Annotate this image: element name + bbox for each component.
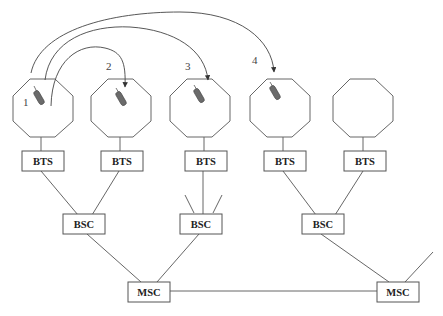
msc-box-2: MSC bbox=[377, 282, 419, 302]
bts-box-3: BTS bbox=[185, 151, 227, 171]
bts-bsc-links bbox=[41, 171, 363, 215]
cell-number-3: 3 bbox=[185, 60, 191, 72]
cell-5 bbox=[333, 79, 393, 137]
bsc-label: BSC bbox=[74, 219, 94, 230]
bts-label: BTS bbox=[33, 156, 53, 167]
bts-box-5: BTS bbox=[344, 151, 386, 171]
bsc-box-1: BSC bbox=[63, 214, 105, 234]
msc-box-1: MSC bbox=[128, 282, 170, 302]
bts-label: BTS bbox=[196, 156, 216, 167]
bts-label: BTS bbox=[112, 156, 132, 167]
bts-box-4: BTS bbox=[264, 151, 306, 171]
bsc-label: BSC bbox=[313, 219, 333, 230]
bsc-box-2: BSC bbox=[180, 214, 222, 234]
cell-number-1: 1 bbox=[23, 96, 29, 108]
msc-label: MSC bbox=[137, 287, 160, 298]
msc-label: MSC bbox=[386, 287, 409, 298]
cell-number-2: 2 bbox=[106, 60, 112, 72]
cell-1 bbox=[13, 79, 73, 137]
cell-3 bbox=[170, 79, 230, 137]
bts-box-2: BTS bbox=[101, 151, 143, 171]
network-diagram: 1 2 3 4 BTS BTS BTS BTS BTS BSC BSC BSC … bbox=[0, 0, 443, 316]
bsc-box-3: BSC bbox=[302, 214, 344, 234]
bts-label: BTS bbox=[355, 156, 375, 167]
cell-4 bbox=[250, 79, 310, 137]
cell-2 bbox=[91, 79, 151, 137]
bts-box-1: BTS bbox=[22, 151, 64, 171]
bsc-label: BSC bbox=[191, 219, 211, 230]
bts-label: BTS bbox=[275, 156, 295, 167]
cell-number-4: 4 bbox=[252, 54, 258, 66]
